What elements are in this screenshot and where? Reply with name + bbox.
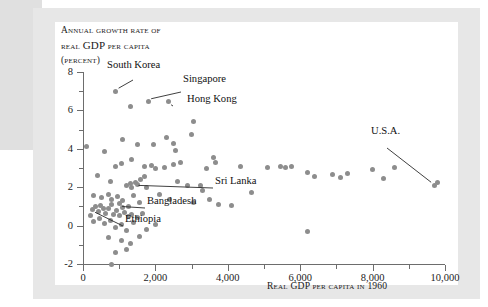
frame-band-bottom [33, 285, 480, 299]
scatter-plot-area: -20246802,0004,0006,0008,00010,000 South… [55, 22, 458, 285]
leader-line [122, 207, 145, 208]
leader-line [119, 80, 133, 88]
annotation-label-bangladesh: Bangladesh [147, 196, 196, 207]
figure-page: Annual growth rate of real GDP per capit… [0, 0, 488, 307]
annotation-label-hong-kong: Hong Kong [187, 94, 237, 105]
annotation-label-u-s-a: U.S.A. [371, 126, 400, 137]
leader-line [171, 105, 173, 106]
leader-line [387, 148, 431, 182]
annotation-label-sri-lanka: Sri Lanka [215, 176, 256, 187]
leader-line [95, 212, 123, 226]
annotation-label-singapore: Singapore [183, 74, 226, 85]
chart-figure: Annual growth rate of real GDP per capit… [55, 22, 458, 285]
annotation-label-south-korea: South Korea [107, 60, 160, 71]
leader-line [138, 185, 213, 188]
leader-line [151, 92, 181, 99]
x-axis-title: Real GDP per capita in 1960 [267, 280, 387, 291]
frame-band-right [458, 8, 480, 299]
annotation-label-ethiopia: Ethiopia [125, 214, 161, 225]
